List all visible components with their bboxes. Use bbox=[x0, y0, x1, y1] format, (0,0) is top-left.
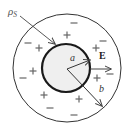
rho-subscript: S bbox=[13, 10, 17, 19]
spherical-charge-diagram: ρS a b E bbox=[0, 0, 126, 131]
surface-charge-pointer bbox=[20, 16, 55, 44]
inner-conductor bbox=[42, 44, 90, 92]
plus-charge-icon bbox=[41, 92, 48, 99]
plus-charge-icon bbox=[64, 32, 71, 39]
outer-radius-label: b bbox=[99, 83, 104, 94]
surface-charge-label: ρS bbox=[7, 5, 17, 19]
plus-charge-icon bbox=[30, 68, 37, 75]
inner-radius-label: a bbox=[70, 52, 75, 63]
field-label: E bbox=[99, 50, 106, 61]
plus-charge-icon bbox=[36, 45, 43, 52]
plus-charge-icon bbox=[94, 75, 101, 82]
plus-charge-icon bbox=[76, 96, 83, 103]
